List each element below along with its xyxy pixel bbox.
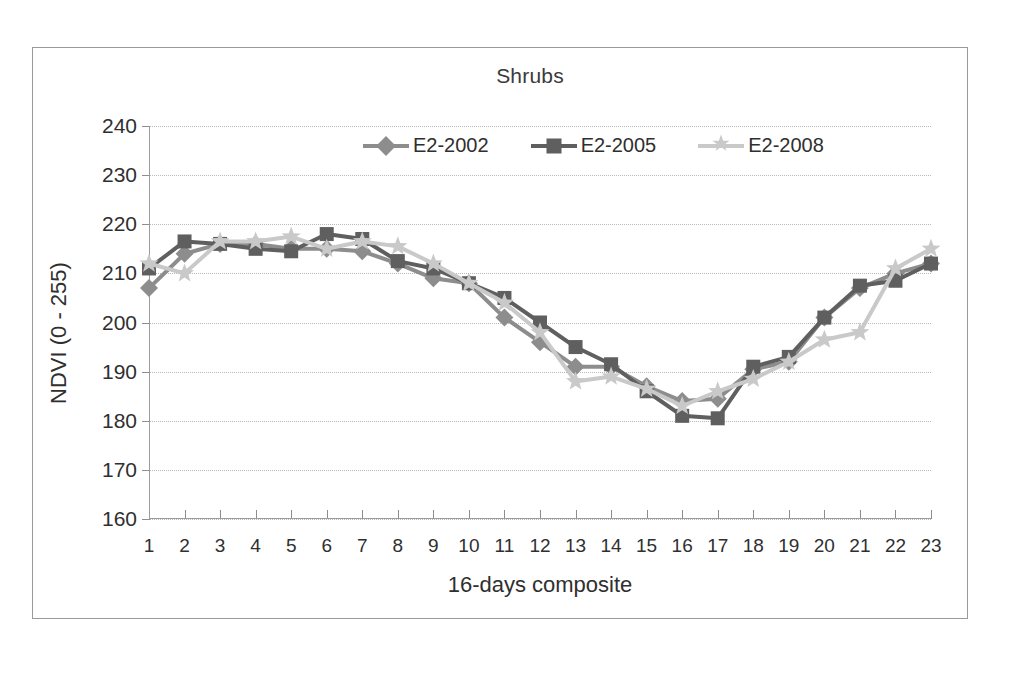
data-point [924, 257, 938, 271]
x-tick-label: 16 [672, 535, 693, 557]
x-tick-label: 5 [286, 535, 297, 557]
data-point [853, 279, 867, 293]
x-tick-label: 4 [250, 535, 261, 557]
x-tick-label: 3 [215, 535, 226, 557]
y-tick-label: 200 [102, 311, 137, 335]
x-tick-label: 6 [321, 535, 332, 557]
y-tick-label: 240 [102, 114, 137, 138]
y-tick-label: 220 [102, 212, 137, 236]
gridline [149, 519, 931, 520]
x-tick-label: 21 [849, 535, 870, 557]
x-tick-label: 9 [428, 535, 439, 557]
x-tick-label: 11 [495, 535, 515, 557]
data-point [850, 322, 869, 340]
x-tick [931, 510, 932, 519]
x-tick-label: 22 [885, 535, 906, 557]
figure-frame: Shrubs NDVI (0 - 255) 16-days composite … [32, 47, 968, 619]
y-tick-label: 230 [102, 163, 137, 187]
y-tick-label: 170 [102, 458, 137, 482]
x-tick-label: 19 [778, 535, 799, 557]
series-plot [149, 126, 931, 519]
data-point [391, 254, 405, 268]
x-tick-label: 1 [144, 535, 155, 557]
x-tick-label: 15 [636, 535, 657, 557]
x-tick-label: 10 [458, 535, 479, 557]
data-point [284, 244, 298, 258]
x-tick-label: 18 [743, 535, 764, 557]
y-tick [142, 519, 150, 520]
x-tick-label: 7 [357, 535, 368, 557]
y-axis-title: NDVI (0 - 255) [46, 262, 72, 404]
y-tick-label: 160 [102, 507, 137, 531]
x-tick-label: 17 [707, 535, 728, 557]
y-tick-label: 190 [102, 360, 137, 384]
data-point [569, 340, 583, 354]
y-tick-label: 180 [102, 409, 137, 433]
data-point [817, 311, 831, 325]
chart-title: Shrubs [33, 64, 967, 88]
plot-area: 160170180190200210220230240 123456789101… [149, 126, 931, 519]
x-tick-label: 2 [179, 535, 190, 557]
x-tick-label: 20 [814, 535, 835, 557]
x-tick-label: 14 [601, 535, 622, 557]
x-tick-label: 13 [565, 535, 586, 557]
x-tick-label: 23 [920, 535, 941, 557]
data-point [711, 411, 725, 425]
y-tick-label: 210 [102, 261, 137, 285]
data-point [178, 234, 192, 248]
x-tick-label: 8 [393, 535, 404, 557]
x-tick-label: 12 [529, 535, 550, 557]
x-axis-title: 16-days composite [149, 572, 931, 598]
